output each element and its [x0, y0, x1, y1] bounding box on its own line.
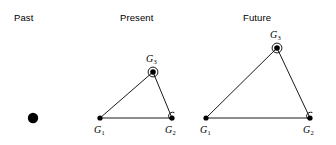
panel-title-present: Present — [120, 12, 153, 23]
node-marker-present-g2 — [169, 115, 174, 120]
vertex-label-future-g1: G1 — [200, 124, 210, 135]
vertex-label-present-g1: G1 — [94, 124, 104, 135]
vertex-label-present-g3: G3 — [146, 53, 156, 64]
edge-future-g1-to-future-g3 — [206, 48, 277, 118]
node-marker-present-g3 — [150, 69, 156, 75]
vertex-label-future-g3: G3 — [270, 29, 280, 40]
node-marker-past-dot — [28, 113, 38, 123]
node-marker-future-g1 — [203, 115, 208, 120]
vertex-label-present-g2: G2 — [165, 124, 175, 135]
node-marker-future-g3 — [274, 45, 280, 51]
node-marker-future-g2 — [307, 115, 312, 120]
edge-present-g3-to-present-g2 — [153, 72, 172, 118]
panel-title-past: Past — [14, 12, 33, 23]
panel-title-future: Future — [243, 12, 271, 23]
evolution-diagram: PastPresentG1G2G3FutureG1G2G3 — [0, 0, 336, 145]
node-marker-present-g1 — [97, 115, 102, 120]
edge-present-g1-to-present-g3 — [100, 72, 153, 118]
edge-future-g3-to-future-g2 — [277, 48, 310, 118]
vertex-label-future-g2: G2 — [303, 124, 313, 135]
